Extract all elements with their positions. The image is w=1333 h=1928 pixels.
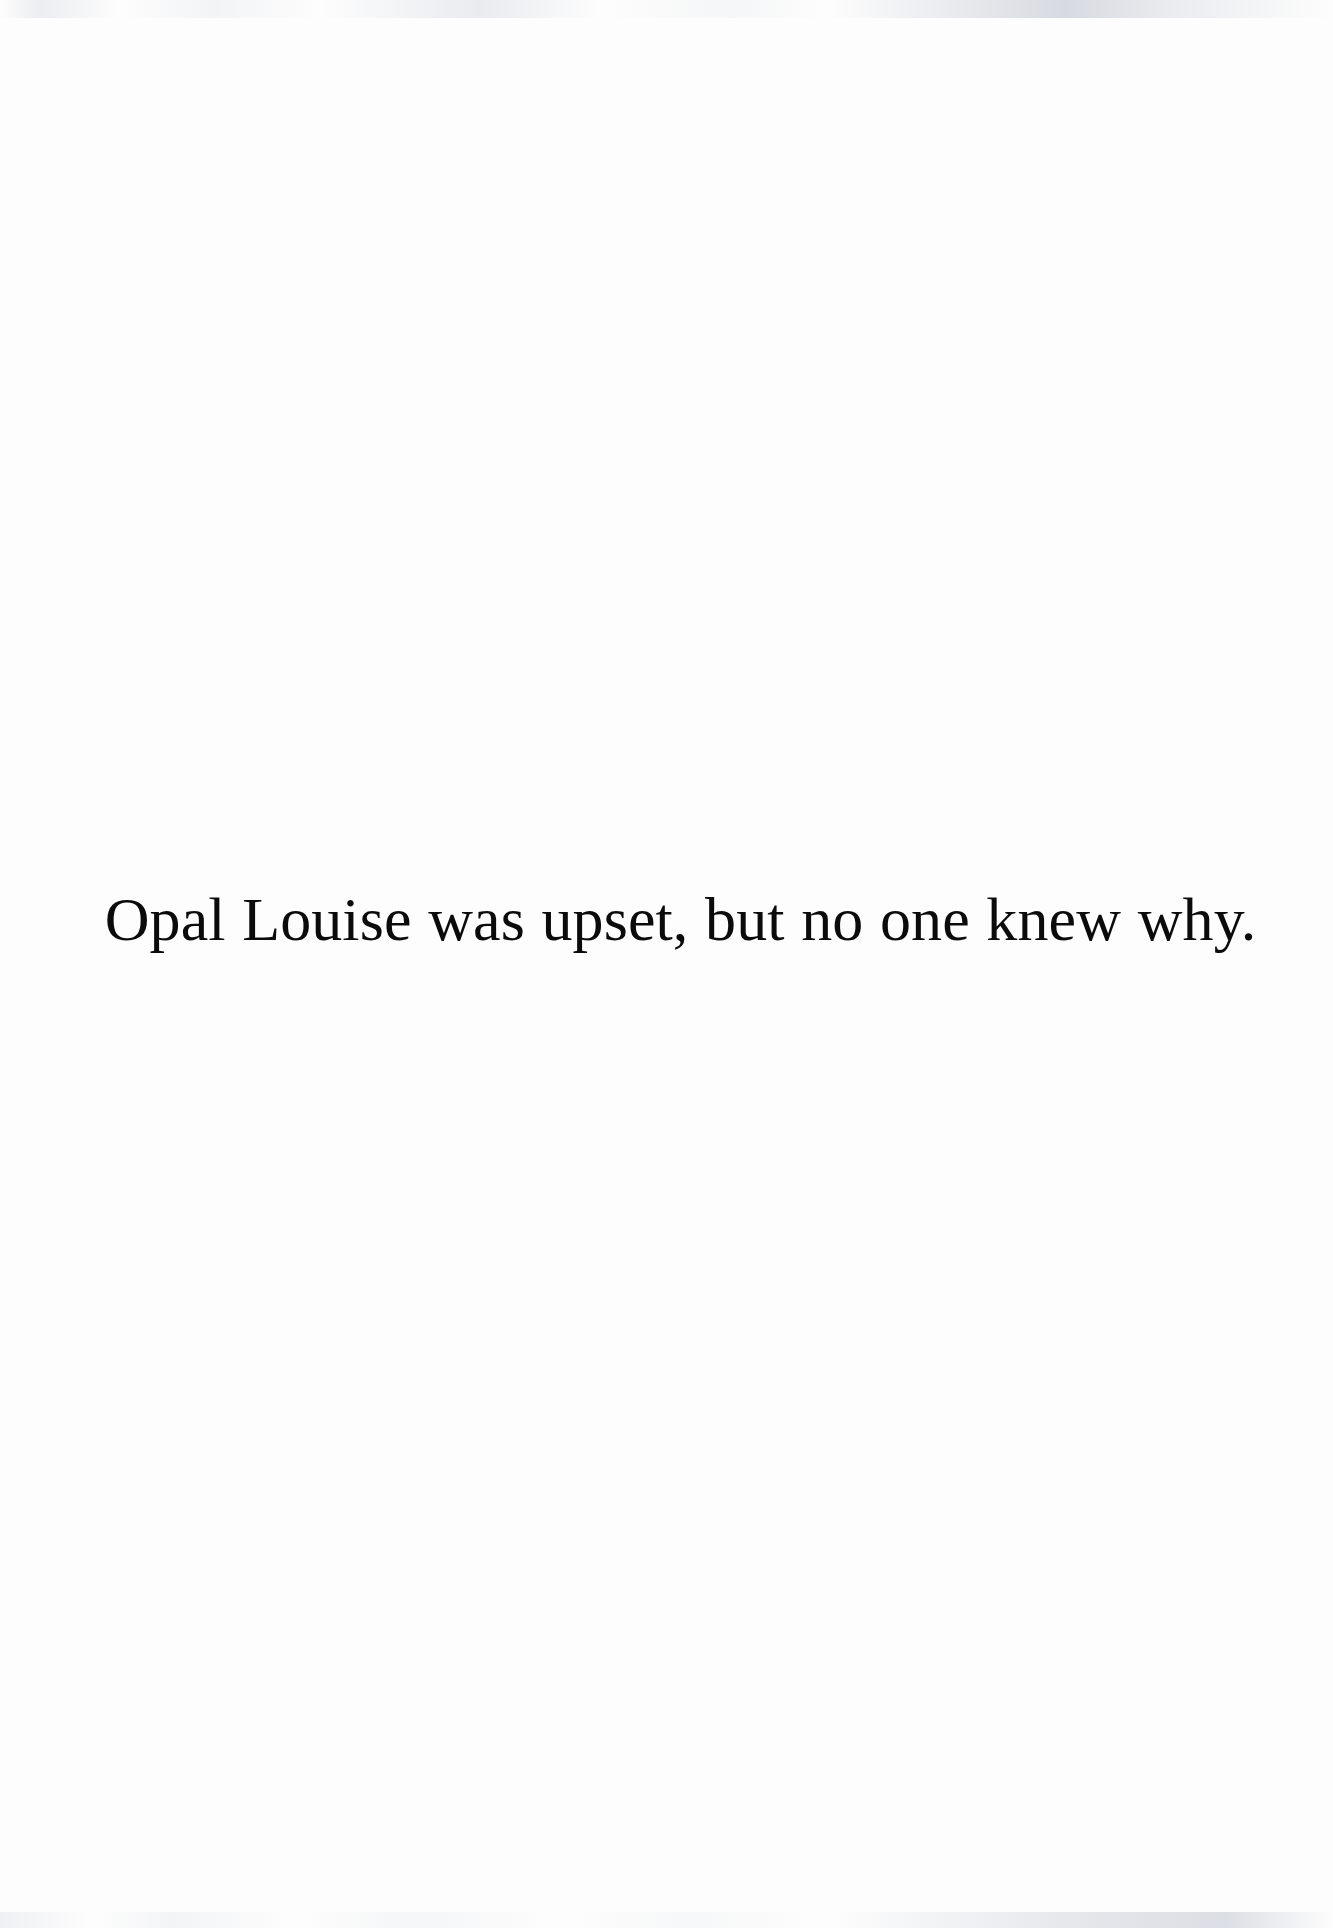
scan-edge-artifact-bottom <box>0 1912 1333 1928</box>
story-text-line: Opal Louise was upset, but no one knew w… <box>105 885 1257 954</box>
page-text-block: Opal Louise was upset, but no one knew w… <box>0 885 1333 954</box>
book-page: Opal Louise was upset, but no one knew w… <box>0 0 1333 1928</box>
scan-edge-artifact-top <box>0 0 1333 18</box>
